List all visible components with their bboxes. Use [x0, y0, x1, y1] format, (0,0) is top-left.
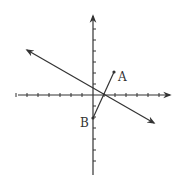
- point-a: [112, 70, 115, 73]
- bidirectional-line: [27, 50, 154, 123]
- coordinate-plane-diagram: A B: [0, 0, 181, 180]
- label-b: B: [80, 116, 89, 130]
- point-b: [91, 116, 94, 119]
- label-a: A: [117, 70, 127, 84]
